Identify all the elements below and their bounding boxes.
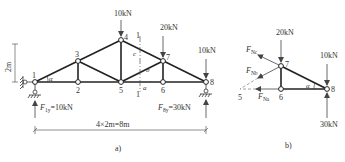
truss-members [35, 40, 206, 82]
member-3-5 [78, 61, 121, 82]
angle-arc [47, 76, 48, 82]
member-label-a: a [143, 84, 147, 92]
node-1 [33, 80, 38, 85]
force-arrow-nb [258, 66, 281, 78]
reaction-label-left: F1y=10kN [39, 103, 73, 113]
node-label-4: 4 [124, 33, 128, 42]
node-label-2: 2 [76, 86, 80, 95]
load-label-node8-up: 30kN [320, 120, 338, 129]
figure-a: 1 1 a b c α 1 2 3 4 5 6 7 8 [4, 9, 216, 153]
member-7-8 [281, 66, 327, 89]
angle-label: α [49, 75, 53, 83]
member-label-c: c [133, 50, 137, 58]
member-5-7 [121, 61, 163, 82]
node-3 [76, 59, 81, 64]
truss-diagram: 1 1 a b c α 1 2 3 4 5 6 7 8 [0, 0, 345, 162]
node-label-8: 8 [210, 78, 214, 87]
force-arrow-nc [258, 55, 281, 66]
node-label-6: 6 [161, 86, 165, 95]
caption-a: a) [115, 144, 122, 153]
node-label-5: 5 [119, 86, 123, 95]
node-label-7-b: 7 [285, 60, 289, 69]
node-4 [119, 38, 124, 43]
node-2 [76, 80, 81, 85]
force-label-nb: FNb [245, 66, 258, 76]
node-label-7: 7 [166, 53, 170, 62]
force-label-nc: FNc [245, 45, 258, 55]
node-label-1: 1 [32, 71, 36, 80]
section-label-bottom: 1 [136, 90, 140, 99]
load-label-node8-down: 10kN [320, 51, 338, 60]
node-label-8-b: 8 [331, 85, 335, 94]
pin-support-left [20, 76, 41, 98]
node-label-6-b: 6 [279, 93, 283, 102]
node-label-3: 3 [75, 50, 79, 59]
load-label-node7-b: 20kN [276, 28, 294, 37]
node-8-b [325, 87, 330, 92]
node-7-b [279, 64, 284, 69]
node-8 [204, 80, 209, 85]
force-label-na: FNa [257, 92, 270, 102]
angle-arc-b [314, 83, 315, 89]
load-label-node8: 10kN [198, 46, 216, 55]
figure-b: α 7 6 8 5 FNc FNb FNa 20kN 10kN 30kN b) [238, 28, 338, 150]
load-label-node4: 10kN [114, 9, 132, 18]
member-label-b: b [146, 66, 150, 74]
height-label: 2m [4, 61, 13, 72]
extension-line-b [240, 78, 258, 89]
caption-b: b) [285, 141, 292, 150]
angle-label-b: α [306, 82, 310, 90]
node-7 [161, 59, 166, 64]
node-6 [161, 80, 166, 85]
node-label-5-b: 5 [238, 93, 242, 102]
node-5 [119, 80, 124, 85]
section-label-top: 1 [136, 31, 140, 40]
load-label-node7: 20kN [160, 23, 178, 32]
reaction-label-right: F8y=30kN [157, 103, 191, 113]
span-label: 4×2m=8m [96, 120, 130, 129]
node-6-b [279, 87, 284, 92]
